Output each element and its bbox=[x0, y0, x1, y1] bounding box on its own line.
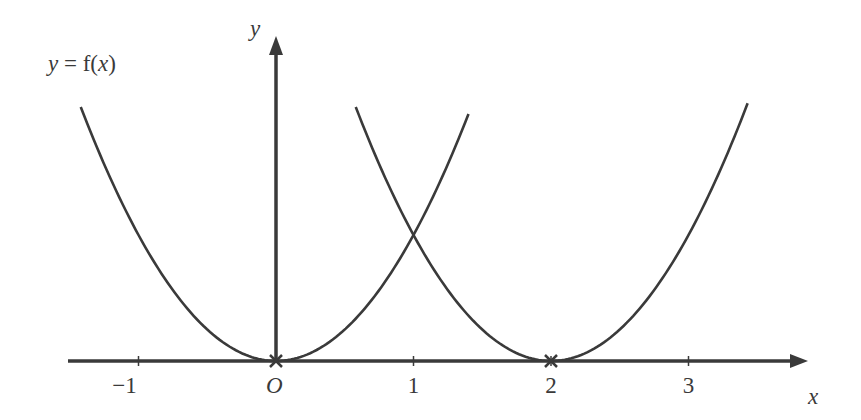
graph-diagram: −1123 y x O y = f(x) bbox=[0, 0, 861, 420]
x-tick-label: 3 bbox=[683, 373, 695, 398]
y-axis-arrowhead bbox=[269, 36, 283, 55]
curve-label: y = f(x) bbox=[46, 51, 116, 76]
x-tick-label: −1 bbox=[112, 373, 136, 398]
x-tick-label: 1 bbox=[408, 373, 420, 398]
x-axis-label: x bbox=[807, 384, 819, 409]
y-axis-label: y bbox=[248, 16, 261, 41]
origin-label: O bbox=[266, 373, 283, 398]
x-axis-arrowhead bbox=[790, 354, 808, 368]
x-tick-label: 2 bbox=[545, 373, 557, 398]
